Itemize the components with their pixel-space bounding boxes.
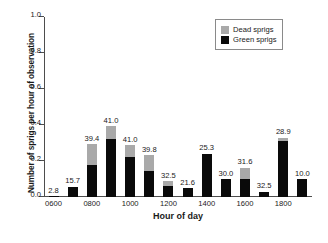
y-tick-label: 0.0 — [30, 190, 41, 199]
bar-0900[interactable]: 41.0 — [106, 126, 116, 197]
bar-value-label: 32.5 — [257, 181, 272, 190]
bar-0700[interactable]: 15.7 — [68, 187, 78, 197]
bar-value-label: 41.0 — [123, 135, 138, 144]
bar-segment-green — [125, 157, 135, 197]
bar-segment-dead — [125, 145, 135, 157]
chart-figure: Number of sprigs per hour of observation… — [0, 0, 328, 243]
x-tick-label: 1800 — [275, 199, 292, 208]
x-tick-label: 1600 — [237, 199, 254, 208]
x-tick-label: 1200 — [160, 199, 177, 208]
bar-segment-green — [278, 141, 288, 197]
bar-0800[interactable]: 39.4 — [87, 144, 97, 197]
y-tick-label: 0.6 — [30, 82, 41, 91]
legend-swatch-icon — [221, 26, 229, 34]
bar-1100[interactable]: 39.8 — [144, 155, 154, 197]
bar-value-label: 15.7 — [65, 176, 80, 185]
bar-segment-dead — [144, 155, 154, 170]
bar-1600[interactable]: 31.6 — [240, 168, 250, 197]
bar-segment-dead — [87, 144, 97, 164]
bar-value-label: 39.4 — [84, 134, 99, 143]
bar-value-label: 10.0 — [295, 169, 310, 178]
legend-label: Green sprigs — [233, 35, 276, 44]
bar-value-label: 41.0 — [104, 116, 119, 125]
bar-value-label: 28.9 — [276, 127, 291, 136]
bar-segment-green — [202, 154, 212, 197]
bar-value-label: 31.6 — [238, 157, 253, 166]
x-axis-ticks: 0600080010001200140016001800 — [44, 197, 312, 211]
y-tick-label: 0.4 — [30, 118, 41, 127]
bar-1400[interactable]: 25.3 — [202, 154, 212, 197]
bar-segment-dead — [106, 126, 116, 139]
x-tick-label: 1000 — [122, 199, 139, 208]
legend-label: Dead sprigs — [233, 25, 274, 34]
bar-1300[interactable]: 21.6 — [183, 188, 193, 197]
y-tick-label: 1.0 — [30, 10, 41, 19]
bar-1200[interactable]: 32.5 — [163, 181, 173, 197]
bar-segment-dead — [240, 168, 250, 179]
bar-segment-green — [144, 171, 154, 197]
bar-1500[interactable]: 30.0 — [221, 179, 231, 197]
bar-segment-green — [297, 179, 307, 197]
chart-legend: Dead sprigsGreen sprigs — [215, 19, 283, 50]
bar-segment-green — [240, 179, 250, 197]
bar-value-label: 30.0 — [218, 169, 233, 178]
bar-value-label: 21.6 — [180, 178, 195, 187]
bar-1000[interactable]: 41.0 — [125, 145, 135, 197]
legend-swatch-icon — [221, 36, 229, 44]
bar-segment-green — [163, 186, 173, 197]
legend-item-dead[interactable]: Dead sprigs — [221, 25, 276, 34]
bar-segment-green — [221, 179, 231, 197]
x-tick-label: 0800 — [83, 199, 100, 208]
bar-value-label: 25.3 — [199, 143, 214, 152]
bar-value-label: 2.8 — [48, 186, 59, 195]
bar-1900[interactable]: 10.0 — [297, 179, 307, 197]
x-tick-label: 0600 — [45, 199, 62, 208]
y-tick-label: 0.2 — [30, 154, 41, 163]
bar-segment-green — [183, 188, 193, 197]
bar-value-label: 32.5 — [161, 171, 176, 180]
legend-item-green[interactable]: Green sprigs — [221, 35, 276, 44]
bar-segment-green — [106, 139, 116, 197]
bar-segment-green — [87, 165, 97, 197]
x-tick-label: 1400 — [198, 199, 215, 208]
x-axis-title: Hour of day — [44, 211, 312, 221]
bar-1800[interactable]: 28.9 — [278, 138, 288, 197]
bar-value-label: 39.8 — [142, 145, 157, 154]
y-tick-label: 0.8 — [30, 46, 41, 55]
bar-segment-green — [68, 187, 78, 197]
